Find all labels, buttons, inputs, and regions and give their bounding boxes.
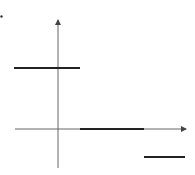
step-segments <box>14 68 185 157</box>
step-function-plot <box>0 0 195 175</box>
marker-dot <box>0 15 2 17</box>
